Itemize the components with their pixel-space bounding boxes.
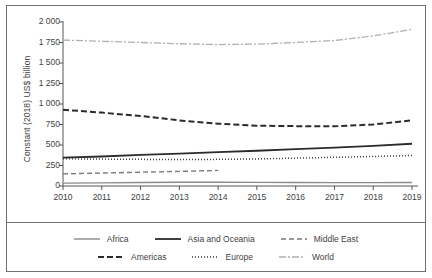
x-tick-label: 2015: [237, 193, 277, 202]
legend-item[interactable]: Europe: [192, 252, 252, 262]
legend-label: Africa: [107, 234, 129, 244]
legend-line-swatch: [192, 252, 218, 262]
legend-label: World: [312, 252, 334, 262]
legend-row: AfricaAsia and OceaniaMiddle East: [6, 231, 426, 247]
x-tick-label: 2019: [392, 193, 432, 202]
x-tick-label: 2013: [159, 193, 199, 202]
legend-row: AmericasEuropeWorld: [6, 249, 426, 265]
x-tick-label: 2010: [43, 193, 83, 202]
legend-item[interactable]: World: [279, 252, 334, 262]
legend-label: Middle East: [314, 234, 358, 244]
x-tick-label: 2018: [353, 193, 393, 202]
legend-item[interactable]: Americas: [98, 252, 166, 262]
x-tick-label: 2017: [314, 193, 354, 202]
chart-figure: 2 0001 7501 5001 2501 0007505002500 2010…: [0, 0, 432, 278]
legend-line-swatch: [281, 234, 307, 244]
legend-label: Europe: [225, 252, 252, 262]
legend-item[interactable]: Middle East: [281, 234, 358, 244]
legend-line-swatch: [155, 234, 181, 244]
x-tick-label: 2016: [276, 193, 316, 202]
legend-line-swatch: [279, 252, 305, 262]
legend-item[interactable]: Asia and Oceania: [155, 234, 255, 244]
x-tick-label: 2014: [198, 193, 238, 202]
x-tick-label: 2012: [121, 193, 161, 202]
y-axis-title: Constant (2018) US$ billion: [22, 24, 32, 194]
chart-legend: AfricaAsia and OceaniaMiddle East Americ…: [6, 222, 426, 272]
legend-line-swatch: [98, 252, 124, 262]
legend-label: Americas: [131, 252, 166, 262]
legend-line-swatch: [74, 234, 100, 244]
legend-item[interactable]: Africa: [74, 234, 129, 244]
legend-label: Asia and Oceania: [188, 234, 255, 244]
x-tick-label: 2011: [82, 193, 122, 202]
